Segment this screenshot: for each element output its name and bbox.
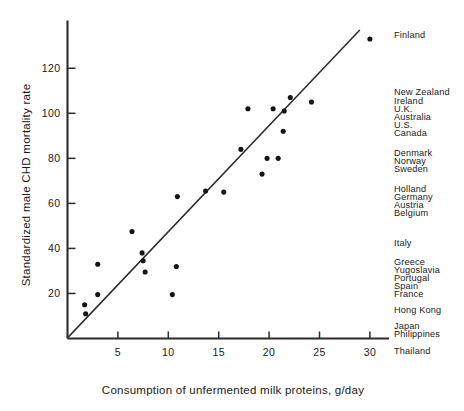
y-tick-label: 100 <box>42 107 61 119</box>
country-label: Canada <box>394 129 427 138</box>
data-point <box>238 147 243 152</box>
data-point <box>174 264 179 269</box>
country-label: France <box>394 290 424 299</box>
data-point <box>309 99 314 104</box>
x-tick-label: 15 <box>212 346 224 358</box>
y-tick-label: 80 <box>48 152 60 164</box>
x-tick-label: 30 <box>364 346 376 358</box>
x-tick-label: 20 <box>263 346 275 358</box>
data-point <box>95 292 100 297</box>
trend-line-group <box>68 30 360 337</box>
data-point <box>245 106 250 111</box>
country-label: Belgium <box>394 209 428 218</box>
country-label: Philippines <box>394 330 440 339</box>
ticks-group <box>68 68 370 338</box>
data-point <box>221 190 226 195</box>
y-tick-label: 20 <box>48 287 60 299</box>
data-point <box>281 129 286 134</box>
data-point <box>129 229 134 234</box>
data-point <box>143 270 148 275</box>
data-point <box>170 292 175 297</box>
data-point <box>141 258 146 263</box>
data-point <box>259 172 264 177</box>
data-point <box>140 250 145 255</box>
x-axis-title: Consumption of unfermented milk proteins… <box>102 384 364 396</box>
x-tick-label: 5 <box>115 346 121 358</box>
data-point <box>288 95 293 100</box>
y-axis-title: Standardized male CHD mortality rate <box>20 84 32 287</box>
data-point <box>83 311 88 316</box>
data-point <box>203 188 208 193</box>
data-point <box>282 108 287 113</box>
data-point <box>175 194 180 199</box>
y-tick-label: 120 <box>42 62 61 74</box>
country-label: Thailand <box>394 347 430 356</box>
axes-group <box>68 21 390 339</box>
country-label: Sweden <box>394 165 428 174</box>
regression-line <box>68 30 360 337</box>
data-point <box>95 262 100 267</box>
data-points-group <box>82 36 372 316</box>
x-tick-label: 25 <box>313 346 325 358</box>
country-label: Italy <box>394 239 412 248</box>
country-label: Finland <box>394 31 425 40</box>
scatter-plot-figure: 5101520253020406080100120 Consumption of… <box>0 0 464 411</box>
y-tick-label: 40 <box>48 242 60 254</box>
data-point <box>271 106 276 111</box>
x-tick-label: 10 <box>162 346 174 358</box>
data-point <box>367 36 372 41</box>
country-label-column: FinlandNew ZealandIrelandU.K.AustraliaU.… <box>394 0 464 411</box>
y-tick-label: 60 <box>48 197 60 209</box>
data-point <box>82 302 87 307</box>
data-point <box>276 156 281 161</box>
data-point <box>265 156 270 161</box>
country-label: Hong Kong <box>394 306 441 315</box>
